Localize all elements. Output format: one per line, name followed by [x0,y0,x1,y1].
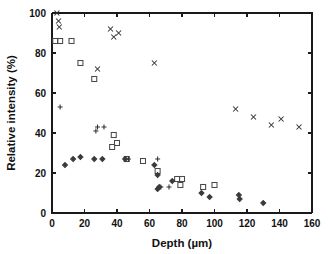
x-tick-label: 160 [304,218,321,229]
data-point-diamond [78,155,83,160]
data-point-x [233,107,238,112]
data-point-square [111,133,116,138]
x-tick-label: 0 [49,218,55,229]
data-point-x [297,125,302,130]
y-tick-label: 40 [35,128,47,139]
x-axis-title: Depth (µm) [152,237,212,249]
data-point-square [141,159,146,164]
data-point-x [57,25,62,30]
data-point-x [95,67,100,72]
plot-canvas: 020406080100120140160020406080100Depth (… [0,0,330,254]
data-point-plus [102,125,107,130]
x-tick-label: 20 [79,218,91,229]
data-point-square [178,183,183,188]
data-point-square [115,141,120,146]
data-point-x [279,117,284,122]
y-tick-label: 100 [29,8,46,19]
data-point-square [201,185,206,190]
data-point-diamond [170,179,175,184]
data-point-x [108,27,113,32]
x-tick-label: 40 [111,218,123,229]
data-point-square [180,177,185,182]
data-point-square [69,39,74,44]
data-point-diamond [152,163,157,168]
data-point-plus [155,157,160,162]
y-axis-title: Relative intensity (%) [5,55,17,171]
x-tick-label: 80 [176,218,188,229]
x-tick-label: 60 [144,218,156,229]
data-point-square [212,183,217,188]
data-point-square [58,39,63,44]
data-point-diamond [100,157,105,162]
data-point-diamond [199,191,204,196]
data-point-x [269,123,274,128]
data-point-x [111,35,116,40]
data-point-x [152,61,157,66]
x-tick-label: 120 [239,218,256,229]
data-point-diamond [207,195,212,200]
y-tick-label: 60 [35,88,47,99]
x-tick-label: 140 [271,218,288,229]
data-point-square [92,77,97,82]
data-point-diamond [261,201,266,206]
data-point-diamond [63,163,68,168]
scatter-plot-figure: 020406080100120140160020406080100Depth (… [0,0,330,254]
y-tick-label: 20 [35,168,47,179]
data-point-square [110,145,115,150]
data-point-square [53,39,58,44]
data-point-x [116,31,121,36]
data-point-x [251,115,256,120]
y-tick-label: 80 [35,48,47,59]
data-point-square [175,177,180,182]
data-point-square [78,61,83,66]
data-point-plus [58,105,63,110]
data-point-diamond [71,157,76,162]
y-tick-label: 0 [40,208,46,219]
data-point-plus [167,185,172,190]
data-point-diamond [92,157,97,162]
x-tick-label: 100 [206,218,223,229]
data-point-x [56,19,61,24]
data-point-diamond [123,157,128,162]
